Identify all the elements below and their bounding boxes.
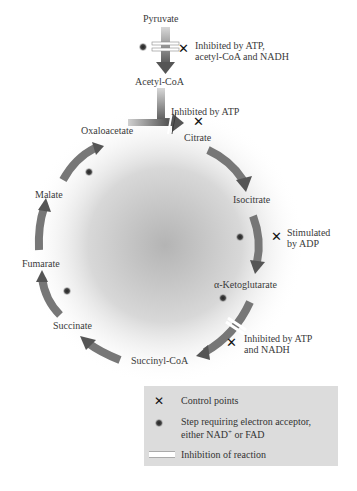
citric-acid-cycle-diagram: Pyruvate Acetyl-CoA ✕ Inhibited by ATP, … (0, 0, 357, 491)
legend-control-points-text: Control points (181, 395, 239, 406)
succinyl-coa-label: Succinyl-CoA (131, 355, 188, 366)
pyruvate-label: Pyruvate (143, 13, 179, 24)
acetyl-coa-label: Acetyl-CoA (135, 76, 184, 87)
isocitrate-label: Isocitrate (233, 194, 270, 205)
legend-inhibition-text: Inhibition of reaction (181, 449, 266, 460)
akg-dh-note-line1: Inhibited by ATP (244, 333, 312, 344)
fad-text: or FAD (232, 429, 265, 440)
citrate-synthase-note: Inhibited by ATP (171, 106, 239, 117)
nad-text: either NAD (181, 429, 228, 440)
legend: ✕ Control points Step requiring electron… (144, 386, 338, 466)
akg-dh-note-line2: and NADH (244, 344, 290, 355)
isocitrate-dh-note-line2: by ADP (287, 238, 319, 249)
succinate-label: Succinate (53, 320, 92, 331)
pdh-note-line2: acetyl-CoA and NADH (195, 51, 289, 62)
legend-electron-acceptor-line1: Step requiring electron acceptor, (181, 416, 311, 427)
electron-acceptor-icon (236, 233, 244, 241)
electron-acceptor-icon (139, 43, 147, 51)
electron-acceptor-icon (153, 417, 165, 429)
control-point-x-icon: ✕ (178, 42, 189, 55)
electron-acceptor-icon (63, 287, 71, 295)
inhibition-bar-icon (149, 451, 175, 458)
electron-acceptor-icon (219, 294, 227, 302)
oxaloacetate-label: Oxaloacetate (81, 125, 133, 136)
fumarate-label: Fumarate (22, 258, 60, 269)
legend-electron-acceptor-line2: either NAD+ or FAD (181, 427, 264, 440)
pdh-note-line1: Inhibited by ATP, (195, 40, 265, 51)
control-point-x-icon: ✕ (271, 230, 282, 243)
malate-label: Malate (35, 189, 63, 200)
isocitrate-dh-note-line1: Stimulated (287, 227, 330, 238)
alpha-ketoglutarate-label: α-Ketoglutarate (214, 279, 277, 290)
control-point-x-icon: ✕ (226, 336, 237, 349)
oxaloacetate-arrow-icon (128, 119, 168, 126)
citrate-label: Citrate (184, 132, 211, 143)
control-point-x-icon: ✕ (193, 115, 204, 128)
electron-acceptor-icon (85, 168, 93, 176)
control-point-x-icon: ✕ (154, 394, 164, 408)
pyruvate-arrow-icon (152, 27, 179, 74)
